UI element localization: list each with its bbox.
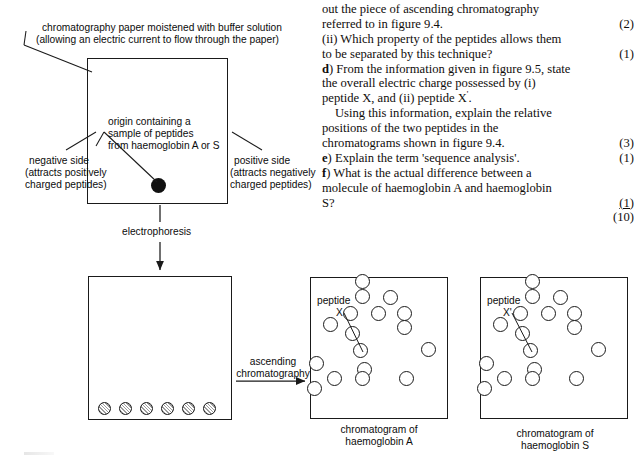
origin-label-line2: sample of peptides	[108, 128, 194, 140]
electrophoretogram-spot	[119, 402, 132, 415]
chromatogram-s-spot	[479, 356, 494, 371]
question-line: e) Explain the term 'sequence analysis'.…	[322, 151, 634, 166]
chromatogram-s-spot	[567, 306, 582, 321]
question-line-text: out the piece of ascending chromatograph…	[322, 2, 539, 16]
scan-artifact	[24, 452, 54, 455]
chromatogram-s-spot	[515, 326, 530, 341]
chromatogram-s-spot	[497, 371, 512, 386]
chromatogram-s-spot	[591, 342, 606, 357]
chromatogram-a-peptide-label-line1: peptide	[317, 295, 350, 307]
ascending-label-line2: chromatography	[230, 368, 316, 380]
chromatogram-a-spot	[327, 371, 342, 386]
question-line: (10)	[322, 210, 634, 225]
chromatogram-a-spot	[397, 306, 412, 321]
question-line-text: f) What is the actual difference between…	[322, 166, 532, 180]
question-line-text: to be separated by this technique?	[322, 47, 492, 61]
chromatogram-a-spot	[309, 356, 324, 371]
chromatogram-s-spot	[525, 289, 540, 304]
question-line-text: referred to in figure 9.4.	[322, 17, 443, 31]
question-line: molecule of haemoglobin A and haemoglobi…	[322, 181, 634, 196]
question-line: S?(1)	[322, 196, 634, 211]
chromatogram-s-spot	[513, 306, 528, 321]
question-line-text: molecule of haemoglobin A and haemoglobi…	[322, 181, 552, 195]
electrophoretogram-spot	[140, 402, 153, 415]
chromatogram-s-spot	[567, 320, 582, 335]
chromatogram-a-spot	[421, 342, 436, 357]
electrophoretogram-spot	[98, 402, 111, 415]
question-line: chromatograms shown in figure 9.4.(3)	[322, 136, 634, 151]
question-line: d) From the information given in figure …	[322, 62, 634, 77]
negative-side-label-line1: negative side	[29, 155, 89, 167]
question-line-text: S?	[322, 196, 335, 210]
paper-label-line1: chromatography paper moistened with buff…	[42, 22, 282, 34]
chromatogram-a-spot	[355, 274, 370, 289]
negative-side-label-line3: charged peptides)	[25, 179, 107, 191]
question-line: to be separated by this technique?(1)	[322, 47, 634, 62]
chromatogram-s-spot	[477, 381, 492, 396]
chromatogram-s-spot	[553, 290, 568, 305]
question-line: (ii) Which property of the peptides allo…	[322, 32, 634, 47]
chromatogram-s-spot	[569, 371, 584, 386]
chromatogram-a-spot	[355, 371, 370, 386]
chromatogram-a-spot	[355, 289, 370, 304]
chromatogram-a-spot	[399, 371, 414, 386]
ascending-label-line1: ascending	[238, 356, 308, 368]
chromatogram-a-spot	[353, 343, 368, 358]
paper-leader-tick	[24, 31, 26, 45]
question-line-text: chromatograms shown in figure 9.4.	[322, 136, 505, 150]
chromatogram-s-peptide-label-line2: X'	[503, 307, 512, 319]
chromatogram-s-caption-line1: chromatogram of	[483, 428, 627, 440]
positive-side-leader	[232, 132, 262, 150]
question-line-text: peptide X, and (ii) peptide X'.	[322, 91, 472, 105]
electrophoretogram-spot	[161, 402, 174, 415]
negative-side-label-line2: (attracts positively	[25, 167, 107, 179]
figure-page: out the piece of ascending chromatograph…	[0, 0, 640, 460]
question-line: peptide X, and (ii) peptide X'.	[322, 91, 634, 106]
question-marks: (1)	[619, 151, 634, 166]
electrophoretogram-box	[88, 276, 232, 420]
question-marks: (10)	[613, 210, 634, 225]
paper-leader-line	[24, 45, 92, 72]
positive-side-label-line2: (attracts negatively	[230, 167, 316, 179]
positive-side-label-line3: charged peptides)	[230, 179, 312, 191]
question-line-text: d) From the information given in figure …	[322, 62, 570, 76]
question-line: referred to in figure 9.4.(2)	[322, 17, 634, 32]
question-marks: (1)	[619, 47, 634, 62]
chromatogram-s-spot	[523, 343, 538, 358]
origin-sample-dot	[151, 178, 166, 193]
question-line: the overall electric charge possessed by…	[322, 76, 634, 91]
question-marks: (3)	[619, 136, 634, 151]
origin-label-line3: from haemoglobin A or S	[108, 140, 220, 152]
question-line-text: e) Explain the term 'sequence analysis'.	[322, 151, 520, 165]
positive-side-label-line1: positive side	[234, 155, 290, 167]
question-line-text: Using this information, explain the rela…	[335, 106, 552, 120]
electrophoretogram-spot	[203, 402, 216, 415]
question-line-text: positions of the two peptides in the	[322, 121, 498, 135]
chromatogram-a-spot	[371, 306, 386, 321]
chromatogram-a-caption-line1: chromatogram of	[309, 424, 449, 436]
chromatogram-a-spot	[345, 326, 360, 341]
question-line-text: (ii) Which property of the peptides allo…	[322, 32, 561, 46]
paper-label-line2: (allowing an electric current to flow th…	[36, 34, 279, 46]
chromatogram-s-spot	[525, 371, 540, 386]
question-marks: (1)	[619, 196, 634, 211]
chromatogram-a-spot	[397, 320, 412, 335]
electrophoresis-process-label: electrophoresis	[122, 226, 191, 238]
question-marks: (2)	[619, 17, 634, 32]
question-line: f) What is the actual difference between…	[322, 166, 634, 181]
question-text-column: out the piece of ascending chromatograph…	[322, 2, 634, 225]
electrophoretogram-spot	[182, 402, 195, 415]
question-line: positions of the two peptides in the	[322, 121, 634, 136]
chromatogram-s-spot	[541, 306, 556, 321]
question-line: out the piece of ascending chromatograph…	[322, 2, 634, 17]
chromatogram-a-spot	[343, 306, 358, 321]
question-line-text: the overall electric charge possessed by…	[322, 76, 536, 90]
chromatogram-a-spot	[307, 381, 322, 396]
question-line: Using this information, explain the rela…	[322, 106, 634, 121]
chromatogram-s-spot	[525, 274, 540, 289]
origin-label-line1: origin containing a	[108, 116, 191, 128]
chromatogram-s-peptide-label-line1: peptide	[487, 295, 520, 307]
chromatogram-s-caption-line2: haemoglobin S	[483, 440, 627, 452]
chromatogram-a-peptide-label-line2: X	[336, 307, 343, 319]
chromatogram-a-spot	[383, 290, 398, 305]
